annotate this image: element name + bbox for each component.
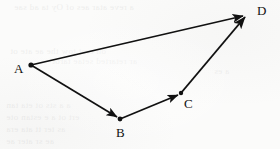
vertex-label-b: B: [116, 126, 125, 139]
vector-a-to-b: [31, 65, 117, 117]
vertex-label-c: C: [184, 97, 193, 110]
vector-b-to-c: [120, 95, 178, 119]
vertex-dot-c: [179, 91, 183, 95]
vector-diagram-figure: a reve atar aes of Oy ta ad sae on erat …: [0, 0, 280, 149]
vertex-dot-a: [28, 62, 33, 67]
vertex-label-a: A: [14, 62, 23, 75]
vector-path-canvas: [0, 0, 280, 149]
vertex-label-d: D: [257, 4, 266, 17]
vertex-dot-b: [118, 117, 123, 122]
